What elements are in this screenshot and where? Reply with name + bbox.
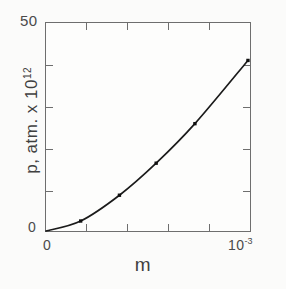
y-axis-title: p, atm. x 1012 xyxy=(22,40,43,200)
series-line-p-vs-m xyxy=(46,60,248,231)
x-axis-max-label: 10-3 xyxy=(228,236,253,253)
data-point-marker xyxy=(79,219,82,222)
y-axis-title-exponent: 12 xyxy=(22,67,33,79)
x-axis-max-exponent: -3 xyxy=(245,236,253,246)
x-axis-title: m xyxy=(0,254,286,276)
y-axis-zero-label: 0 xyxy=(28,219,36,235)
data-point-marker xyxy=(246,59,249,62)
x-axis-max-mantissa: 10 xyxy=(228,237,245,253)
figure-container: 50 0 p, atm. x 1012 0 10-3 xyxy=(0,0,286,289)
plot-area xyxy=(45,22,251,232)
y-axis-max-label: 50 xyxy=(20,12,38,29)
chart-curve-svg xyxy=(46,23,250,231)
y-axis-title-text: p, atm. x 10 xyxy=(22,79,41,174)
data-point-marker xyxy=(118,194,121,197)
series-markers xyxy=(79,59,250,223)
data-point-marker xyxy=(193,122,196,125)
data-point-marker xyxy=(154,162,157,165)
x-axis-zero-label: 0 xyxy=(43,237,51,253)
